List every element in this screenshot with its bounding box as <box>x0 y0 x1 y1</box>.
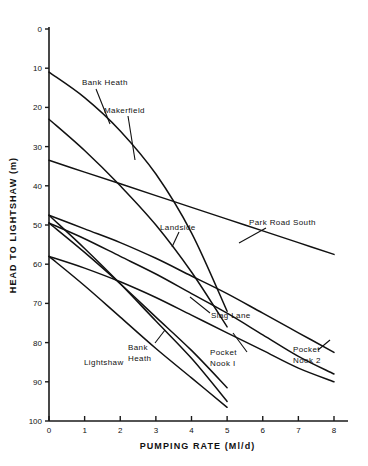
series-label-landside: Landside <box>160 223 196 232</box>
curve-park-road-south <box>49 215 334 352</box>
series-label-park-road-south: Park Road South <box>249 218 316 227</box>
y-tick-label: 10 <box>33 64 42 73</box>
x-tick-label: 7 <box>296 426 301 435</box>
y-axis-title: HEAD TO LIGHTSHAW (m) <box>8 157 18 293</box>
x-tick-label: 2 <box>118 426 123 435</box>
y-tick-label: 90 <box>33 378 42 387</box>
head-vs-pumping-rate-chart: 0102030405060708090100012345678PUMPING R… <box>0 0 368 466</box>
y-tick-label: 40 <box>33 182 42 191</box>
y-tick-label: 0 <box>38 25 43 34</box>
series-label-pocket: Pocket <box>293 345 320 354</box>
annotation-leader <box>155 330 165 343</box>
y-tick-label: 20 <box>33 103 42 112</box>
curve-bank-heath <box>49 215 227 401</box>
x-axis-title: PUMPING RATE (Ml/d) <box>140 441 256 451</box>
series-label-bank-heath: Bank Heath <box>82 78 128 87</box>
x-tick-label: 4 <box>189 426 194 435</box>
x-tick-label: 6 <box>261 426 266 435</box>
annotation-leader <box>172 232 179 247</box>
y-tick-label: 70 <box>33 299 42 308</box>
chart-container: 0102030405060708090100012345678PUMPING R… <box>0 0 368 466</box>
y-tick-label: 50 <box>33 221 42 230</box>
series-label-pocket: Pocket <box>210 348 237 357</box>
series-label-slag-lane: Slag Lane <box>211 311 251 320</box>
annotation-leader <box>239 228 266 243</box>
y-tick-label: 100 <box>29 417 43 426</box>
x-tick-label: 5 <box>225 426 230 435</box>
x-tick-label: 8 <box>332 426 337 435</box>
series-label-makerfield: Makerfield <box>104 106 145 115</box>
y-tick-label: 30 <box>33 143 42 152</box>
curve-landside <box>49 160 334 254</box>
series-label-heath: Heath <box>128 354 151 363</box>
y-tick-label: 80 <box>33 339 42 348</box>
series-label-nook-i: Nook I <box>210 359 236 368</box>
annotation-leader <box>190 297 210 313</box>
curve-lightshaw <box>49 256 227 407</box>
y-tick-label: 60 <box>33 260 42 269</box>
x-tick-label: 0 <box>47 426 52 435</box>
x-tick-label: 1 <box>82 426 87 435</box>
series-label-nook-2: Nook 2 <box>293 356 321 365</box>
x-tick-label: 3 <box>154 426 159 435</box>
series-label-lightshaw: Lightshaw <box>84 358 124 367</box>
series-label-bank: Bank <box>128 343 148 352</box>
annotation-leader <box>128 116 135 160</box>
